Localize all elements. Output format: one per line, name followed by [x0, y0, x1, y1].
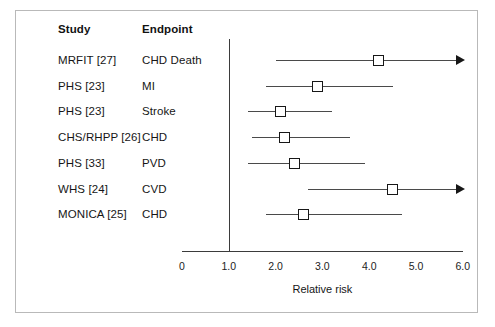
- x-tick-label: 6.0: [455, 260, 470, 272]
- point-estimate-marker: [373, 55, 384, 66]
- study-label: MRFIT [27]: [58, 54, 116, 66]
- forest-row: [167, 158, 479, 170]
- confidence-interval-line: [252, 137, 350, 138]
- ci-truncation-arrow-icon: [456, 184, 465, 194]
- confidence-interval-line: [248, 163, 365, 164]
- study-label: MONICA [25]: [58, 208, 127, 220]
- forest-row: [167, 132, 479, 144]
- forest-row: [167, 81, 479, 93]
- plot-area: Relative risk 01.02.03.04.05.06.0: [167, 11, 479, 314]
- confidence-interval-line: [266, 214, 402, 215]
- point-estimate-marker: [289, 158, 300, 169]
- point-estimate-marker: [275, 106, 286, 117]
- study-label: CHS/RHPP [26]: [58, 131, 141, 143]
- forest-plot-figure: Study Endpoint MRFIT [27]CHD DeathPHS [2…: [15, 10, 478, 313]
- ci-truncation-arrow-icon: [456, 55, 465, 65]
- study-label: PHS [33]: [58, 157, 105, 169]
- x-tick-label: 0: [179, 260, 185, 272]
- endpoint-label: CHD: [142, 131, 167, 143]
- endpoint-label: PVD: [142, 157, 166, 169]
- confidence-interval-line: [308, 189, 455, 190]
- x-tick-label: 5.0: [409, 260, 424, 272]
- x-tick-label: 1.0: [221, 260, 236, 272]
- study-label: PHS [23]: [58, 105, 105, 117]
- endpoint-label: CVD: [142, 183, 167, 195]
- confidence-interval-line: [266, 86, 392, 87]
- x-tick-label: 3.0: [315, 260, 330, 272]
- point-estimate-marker: [298, 209, 309, 220]
- endpoint-label: CHD: [142, 208, 167, 220]
- x-axis-line: [182, 251, 463, 252]
- forest-row: [167, 106, 479, 118]
- confidence-interval-line: [248, 111, 332, 112]
- x-tick-label: 4.0: [362, 260, 377, 272]
- x-axis-title: Relative risk: [292, 283, 352, 295]
- study-label: WHS [24]: [58, 183, 108, 195]
- x-tick-label: 2.0: [268, 260, 283, 272]
- forest-row: [167, 55, 479, 67]
- study-label: PHS [23]: [58, 80, 105, 92]
- forest-row: [167, 209, 479, 221]
- endpoint-label: MI: [142, 80, 155, 92]
- confidence-interval-line: [276, 60, 456, 61]
- point-estimate-marker: [312, 81, 323, 92]
- point-estimate-marker: [387, 184, 398, 195]
- point-estimate-marker: [279, 132, 290, 143]
- column-header-study: Study: [58, 23, 90, 35]
- forest-row: [167, 184, 479, 196]
